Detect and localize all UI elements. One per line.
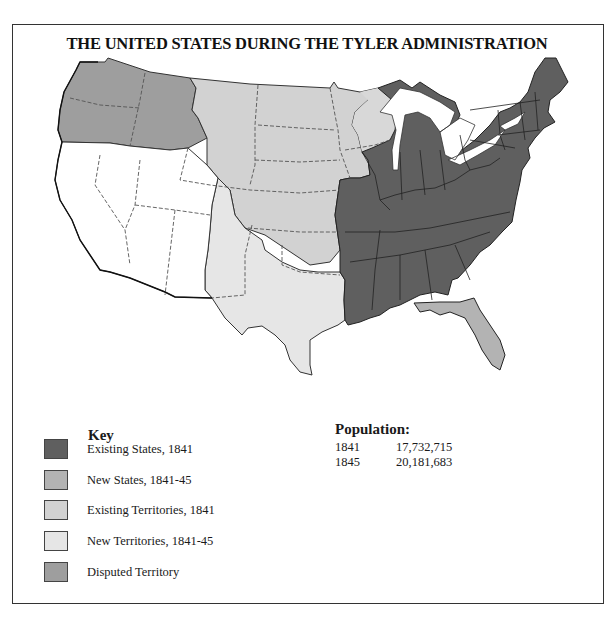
swatch-new-states [44,470,68,490]
key-item-new-states: New States, 1841-45 [44,469,192,491]
population-year: 1841 [335,440,396,455]
population-value: 17,732,715 [396,440,452,455]
population-value: 20,181,683 [396,455,452,470]
key-item-existing-territories: Existing Territories, 1841 [44,499,215,521]
key-item-new-territories: New Territories, 1841-45 [44,530,213,552]
region-new-states-florida [414,298,505,370]
key-item-disputed-territory: Disputed Territory [44,561,179,583]
key-item-existing-states: Existing States, 1841 [44,438,193,460]
population-year: 1845 [335,455,396,470]
key-label: New States, 1841-45 [87,473,192,488]
swatch-disputed-territory [44,562,68,582]
swatch-existing-territories [44,500,68,520]
population-heading: Population: [335,421,410,438]
key-label: Existing Territories, 1841 [87,503,215,518]
population-row: 1841 17,732,715 [335,440,452,455]
swatch-new-territories [44,531,68,551]
region-disputed-territory [58,58,207,150]
key-label: Disputed Territory [87,565,179,580]
region-mexican-territory [55,142,218,298]
key-label: Existing States, 1841 [87,442,193,457]
key-label: New Territories, 1841-45 [87,534,213,549]
us-map [0,0,614,619]
population-row: 1845 20,181,683 [335,455,452,470]
swatch-existing-states [44,439,68,459]
